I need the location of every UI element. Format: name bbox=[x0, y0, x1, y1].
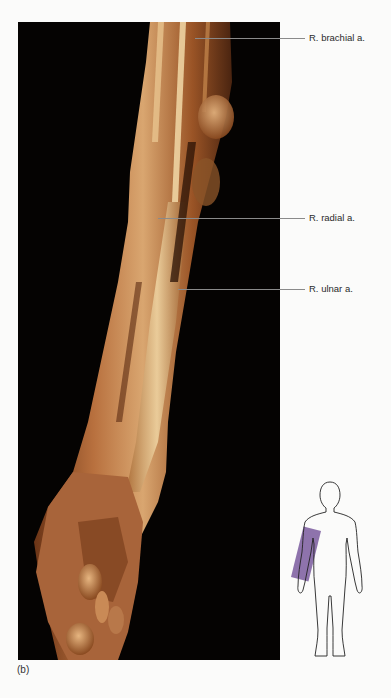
human-body-outline-icon bbox=[285, 478, 375, 663]
label-ulnar-artery: R. ulnar a. bbox=[309, 283, 353, 295]
leader-line-radial bbox=[158, 218, 305, 219]
label-brachial-artery: R. brachial a. bbox=[309, 32, 365, 44]
label-radial-artery: R. radial a. bbox=[309, 212, 355, 224]
dissection-photo bbox=[18, 22, 280, 660]
body-orientation-figure bbox=[285, 478, 375, 667]
forearm-highlight bbox=[291, 527, 321, 582]
panel-letter: (b) bbox=[17, 664, 29, 675]
leader-line-ulnar bbox=[178, 289, 305, 290]
forearm-dissection-illustration bbox=[18, 22, 280, 660]
leader-line-brachial bbox=[195, 38, 305, 39]
